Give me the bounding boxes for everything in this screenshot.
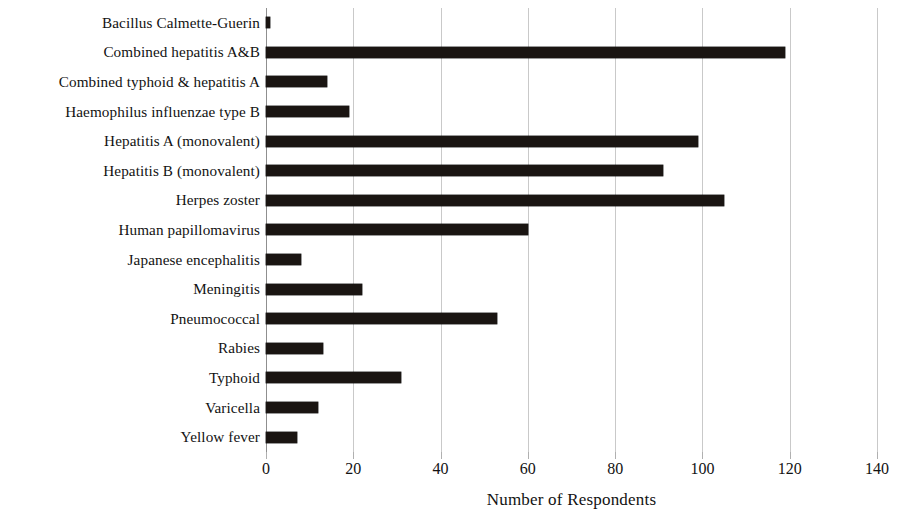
y-axis-label: Yellow fever [181, 422, 260, 452]
y-axis-label: Meningitis [193, 274, 260, 304]
x-axis-title: Number of Respondents [266, 490, 877, 510]
y-axis-label: Human papillomavirus [118, 215, 260, 245]
bar [266, 313, 497, 324]
bar-row [266, 215, 877, 245]
x-axis-tick-marks [266, 452, 877, 460]
bar [266, 136, 698, 147]
bars-layer [266, 8, 877, 452]
bar-row [266, 38, 877, 68]
y-axis-label: Combined hepatitis A&B [103, 38, 260, 68]
y-axis-label: Pneumococcal [170, 304, 260, 334]
y-axis-label: Herpes zoster [176, 186, 260, 216]
bar [266, 17, 270, 28]
x-tick-label: 0 [262, 460, 270, 478]
x-tick-mark [441, 452, 442, 459]
x-tick-label: 40 [433, 460, 449, 478]
x-tick-label: 60 [520, 460, 536, 478]
x-tick-label: 120 [778, 460, 802, 478]
plot-area [266, 8, 877, 452]
x-tick-mark [615, 452, 616, 459]
bar-row [266, 8, 877, 38]
x-tick-label: 100 [690, 460, 714, 478]
bar [266, 106, 349, 117]
bar [266, 372, 401, 383]
bar-row [266, 274, 877, 304]
y-axis-label: Rabies [218, 334, 260, 364]
bar [266, 254, 301, 265]
x-tick-mark [353, 452, 354, 459]
bar-row [266, 304, 877, 334]
bar-row [266, 422, 877, 452]
y-axis-label: Hepatitis B (monovalent) [103, 156, 260, 186]
bar [266, 402, 318, 413]
y-axis-label: Varicella [205, 393, 260, 423]
bar [266, 76, 327, 87]
bar [266, 343, 323, 354]
gridline-140 [877, 8, 878, 452]
y-axis-category-labels: Bacillus Calmette-GuerinCombined hepatit… [0, 8, 260, 452]
y-axis-label: Hepatitis A (monovalent) [104, 126, 260, 156]
bar-row [266, 126, 877, 156]
x-axis-tick-labels: 020406080100120140 [266, 460, 877, 486]
x-tick-label: 20 [345, 460, 361, 478]
bar-row [266, 156, 877, 186]
bar-chart: Bacillus Calmette-GuerinCombined hepatit… [0, 0, 898, 523]
bar-row [266, 363, 877, 393]
y-axis-label: Combined typhoid & hepatitis A [59, 67, 260, 97]
bar [266, 195, 724, 206]
bar-row [266, 334, 877, 364]
y-axis-label: Haemophilus influenzae type B [65, 97, 260, 127]
x-tick-label: 80 [607, 460, 623, 478]
bar [266, 165, 663, 176]
x-tick-label: 140 [865, 460, 889, 478]
bar [266, 47, 785, 58]
y-axis-label: Bacillus Calmette-Guerin [102, 8, 260, 38]
bar-row [266, 186, 877, 216]
bar-row [266, 67, 877, 97]
x-tick-mark [528, 452, 529, 459]
y-axis-label: Japanese encephalitis [128, 245, 260, 275]
x-tick-mark [702, 452, 703, 459]
bar [266, 432, 297, 443]
bar-row [266, 245, 877, 275]
x-tick-mark [790, 452, 791, 459]
y-axis-label: Typhoid [209, 363, 260, 393]
bar-row [266, 97, 877, 127]
x-tick-mark [877, 452, 878, 459]
bar [266, 224, 528, 235]
x-tick-mark [266, 452, 267, 459]
bar-row [266, 393, 877, 423]
bar [266, 284, 362, 295]
